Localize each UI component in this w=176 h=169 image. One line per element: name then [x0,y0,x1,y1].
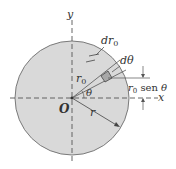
radius-label: r [90,106,96,119]
arrowhead-icon [141,98,145,102]
arrowhead-icon [141,74,145,78]
dr0-label: dr0 [101,34,118,48]
origin-label: O [59,102,70,116]
theta-label: θ [86,87,92,98]
origin-dot [71,97,74,100]
y-axis-label: y [66,8,74,21]
dtheta-label: dθ [120,54,134,67]
disc-diagram: y x O θ r r0 dr0 dθ r0 sen θ [0,0,176,169]
